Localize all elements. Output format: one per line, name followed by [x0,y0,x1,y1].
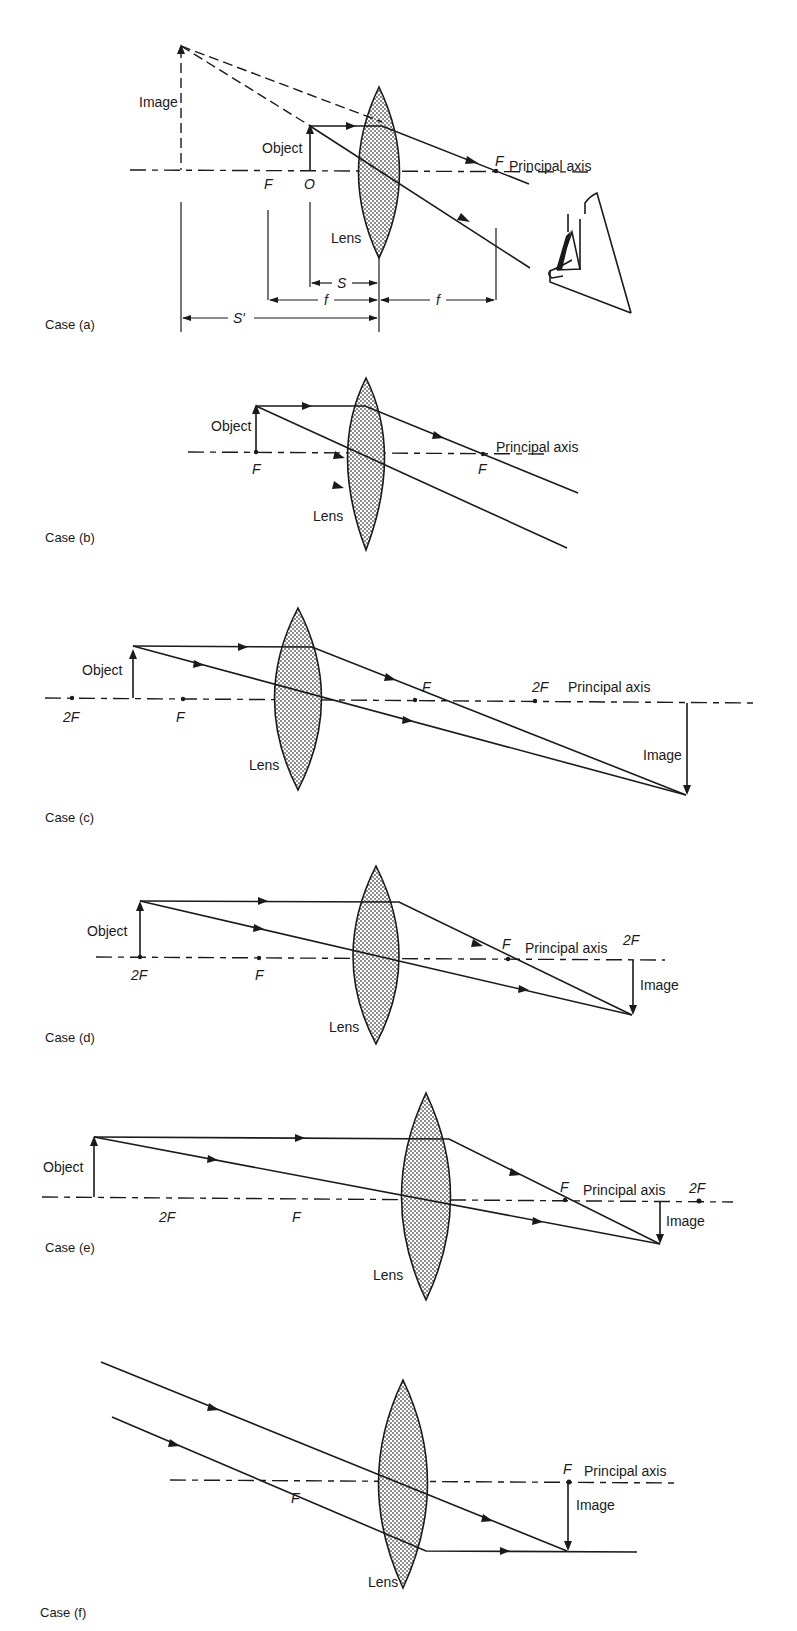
twoF-left-label: 2F [158,1209,177,1225]
case-a-diagram: Image Object F O F Principal axis Lens S… [45,44,631,332]
eye-icon [549,193,631,313]
twice-focal-point-right [697,1199,702,1204]
focal-point-right [494,169,498,173]
arrowhead-icon [302,402,312,410]
ray-lower [112,1417,637,1552]
arrowhead-icon [136,901,144,911]
case-label: Case (d) [45,1030,95,1045]
image-label: Image [576,1497,615,1513]
focal-point-right [481,452,485,456]
arrowhead-icon [369,280,378,286]
focus-left-label: F [176,709,186,725]
dim-s-prime-label: S′ [233,310,246,326]
arrowhead-icon [509,1168,521,1176]
arrowhead-icon [182,315,191,321]
virtual-ray-extension-1 [181,46,382,122]
focus-left-label: F [291,1490,301,1506]
case-label: Case (f) [40,1605,86,1620]
arrowhead-icon [207,1403,219,1411]
object-label: Object [211,418,252,434]
arrowhead-icon [207,1155,218,1163]
focus-right-label: F [478,461,488,477]
dim-s-label: S [337,275,347,291]
focal-point-left [254,450,258,454]
case-b-diagram: Object F F Principal axis Lens Case (b) [45,378,578,550]
arrowhead-icon [346,122,356,130]
arrowhead-icon [238,643,248,651]
focus-right-label: F [560,1179,570,1195]
arrowhead-icon [311,280,320,286]
lens-label: Lens [368,1574,398,1590]
object-label: Object [43,1159,84,1175]
principal-axis-label: Principal axis [496,439,578,455]
principal-axis-label: Principal axis [525,940,607,956]
case-d-diagram: Object 2F F F Principal axis 2F Image Le… [45,866,679,1045]
twice-focal-point-left [138,955,142,959]
focus-left-label: F [292,1209,302,1225]
arrowhead-icon [258,897,268,905]
principal-axis-label: Principal axis [509,158,591,174]
arrowhead-icon [432,431,444,439]
lens-label: Lens [313,508,343,524]
focus-right-label: F [563,1461,573,1477]
twoF-right-label: 2F [688,1180,707,1196]
twoF-right-label: 2F [531,679,550,695]
dim-f-left-label: f [324,292,330,308]
arrowhead-icon [481,1514,493,1522]
lens-label: Lens [249,757,279,773]
origin-label: O [304,176,315,192]
focal-point-right [563,1198,567,1202]
arrowhead-icon [369,315,378,321]
principal-axis-label: Principal axis [568,679,650,695]
ray-center [256,406,567,548]
principal-axis-label: Principal axis [584,1463,666,1479]
image-label: Image [139,94,178,110]
object-label: Object [82,662,123,678]
image-label: Image [640,977,679,993]
object-label: Object [262,140,303,156]
arrowhead-icon [177,44,185,54]
arrowhead-icon [253,924,264,932]
principal-axis-line [45,698,757,703]
virtual-ray-extension-2 [181,46,312,127]
ray-center [310,126,530,268]
lens-label: Lens [331,230,361,246]
convex-lens [275,608,322,790]
focus-left-label: F [252,461,262,477]
arrowhead-icon [518,985,529,993]
dim-f-right-label: f [436,292,442,308]
ray-upper [101,1362,567,1551]
case-f-diagram: F F Principal axis Image Lens Case (f) [40,1362,680,1620]
case-label: Case (c) [45,810,94,825]
case-label: Case (a) [45,317,95,332]
lens-label: Lens [329,1019,359,1035]
twoF-left-label: 2F [62,709,81,725]
twice-focal-point-left [70,696,74,700]
object-label: Object [87,923,128,939]
case-e-diagram: Object 2F F F Principal axis 2F Image Le… [42,1093,733,1300]
arrowhead-icon [465,156,478,164]
arrowhead-icon [129,649,137,659]
arrowhead-icon [295,1134,305,1142]
focal-point-right [506,957,510,961]
lens-ray-diagram-figure: Image Object F O F Principal axis Lens S… [0,0,797,1631]
arrowhead-icon [500,1547,510,1555]
focal-point-left [257,956,261,960]
case-label: Case (b) [45,530,95,545]
image-label: Image [643,747,682,763]
twice-focal-point-right [533,699,537,703]
focal-point-left [181,697,185,701]
convex-lens [348,378,385,550]
lens-label: Lens [373,1267,403,1283]
image-label: Image [666,1213,705,1229]
case-label: Case (e) [45,1240,95,1255]
focal-point-right [413,698,417,702]
arrowhead-icon [168,1439,180,1447]
case-c-diagram: Object 2F F F 2F Principal axis Image Le… [45,608,757,825]
focus-left-label: F [264,176,274,192]
focus-right-label: F [502,936,512,952]
focus-right-label: F [495,153,505,169]
focus-left-label: F [255,967,265,983]
arrowhead-icon [380,297,389,303]
arrowhead-icon [486,297,495,303]
